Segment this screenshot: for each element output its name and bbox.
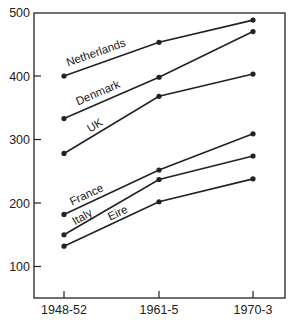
x-tick-label: 1970-3 [234,303,273,317]
data-point [250,71,255,76]
series-netherlands: Netherlands [61,18,255,79]
series-lines: NetherlandsDenmarkUKFranceItalyEire [61,18,255,249]
data-point [250,18,255,23]
data-point [156,75,161,80]
y-tick-label: 300 [9,133,30,147]
x-axis: 1948-521961-51970-3 [41,291,272,317]
series-label: Denmark [74,78,122,108]
x-tick-label: 1961-5 [140,303,179,317]
data-point [61,212,66,217]
line-chart: 100200300400500 1948-521961-51970-3 Neth… [0,0,294,323]
series-label: Eire [106,203,130,223]
y-tick-label: 500 [9,6,30,20]
data-point [61,151,66,156]
y-tick-label: 100 [9,260,30,274]
data-point [250,29,255,34]
data-point [156,167,161,172]
y-axis: 100200300400500 [9,6,41,274]
data-point [61,73,66,78]
data-point [61,116,66,121]
data-point [250,131,255,136]
series-label: Netherlands [65,36,128,68]
data-point [61,232,66,237]
data-point [156,199,161,204]
data-point [156,94,161,99]
x-tick-label: 1948-52 [41,303,87,317]
data-point [156,177,161,182]
data-point [156,40,161,45]
series-label: UK [85,116,105,135]
data-point [250,176,255,181]
data-point [250,153,255,158]
data-point [61,244,66,249]
y-tick-label: 400 [9,70,30,84]
y-tick-label: 200 [9,197,30,211]
